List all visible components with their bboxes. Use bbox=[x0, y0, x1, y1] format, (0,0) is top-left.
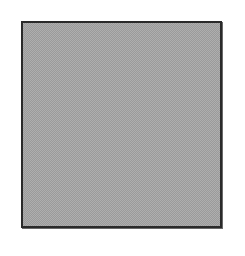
canvas bbox=[0, 0, 245, 256]
gray-square-swatch bbox=[21, 21, 222, 228]
